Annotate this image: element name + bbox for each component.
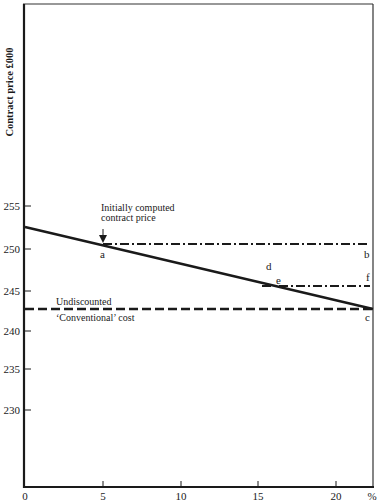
chart-canvas: Contract price £000 255 250 245 240 235 … <box>0 0 380 502</box>
y-tick-230: 230 <box>4 404 21 416</box>
x-unit-percent: % <box>367 490 376 502</box>
arrow-down-icon <box>99 229 107 243</box>
y-tick-240: 240 <box>4 325 21 337</box>
x-tick-15: 15 <box>253 490 265 502</box>
plot-frame <box>23 4 374 488</box>
point-label-e: e <box>276 274 281 286</box>
y-tick-245: 245 <box>4 285 21 297</box>
point-label-d: d <box>266 260 272 272</box>
x-tick-20: 20 <box>331 490 343 502</box>
x-tick-10: 10 <box>176 490 188 502</box>
y-tick-250: 250 <box>4 243 21 255</box>
x-tick-0: 0 <box>22 490 28 502</box>
point-label-c: c <box>365 311 370 323</box>
annotation-conventional-cost: ‘Conventional’ cost <box>56 312 135 323</box>
x-ticks: 0 5 10 15 20 % <box>22 481 376 502</box>
annotation-undiscounted: Undiscounted <box>56 296 112 307</box>
y-tick-255: 255 <box>4 200 21 212</box>
annotation-initial-line2: contract price <box>101 212 156 223</box>
y-axis-title: Contract price £000 <box>4 47 15 136</box>
point-label-a: a <box>100 248 105 260</box>
point-label-b: b <box>364 248 370 260</box>
x-tick-5: 5 <box>100 490 106 502</box>
point-label-f: f <box>366 271 370 283</box>
y-tick-235: 235 <box>4 363 21 375</box>
